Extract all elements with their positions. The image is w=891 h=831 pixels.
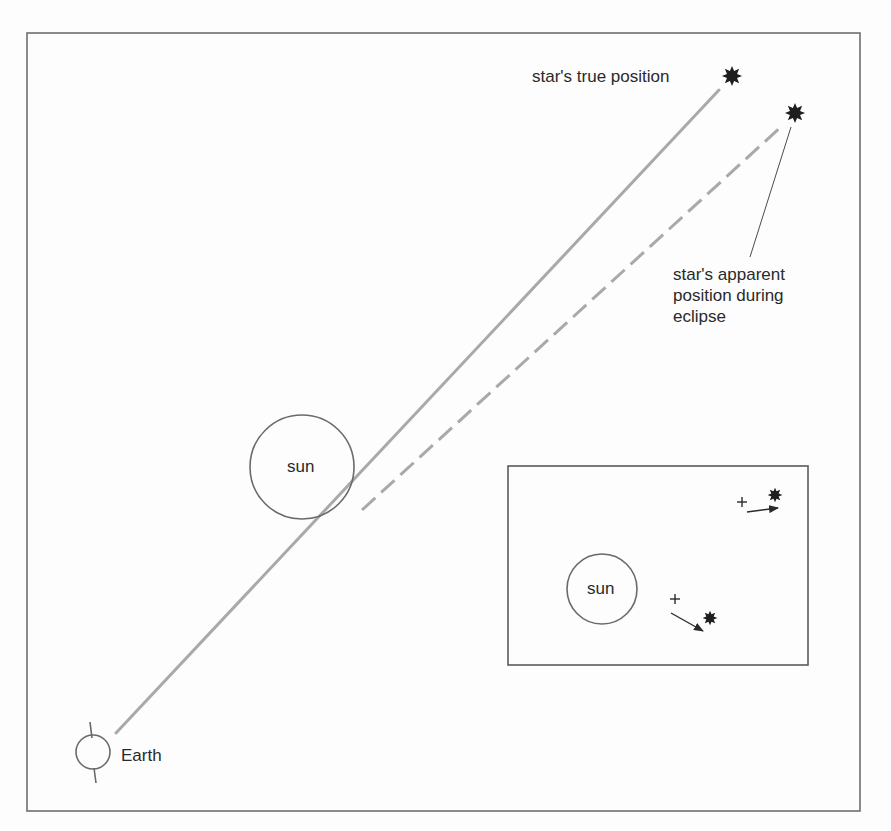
inset-true-position-plus-icon <box>737 497 747 507</box>
inset-box <box>508 466 808 665</box>
apparent-position-label: star's apparent position during eclipse <box>673 264 803 327</box>
true-position-label: star's true position <box>532 66 669 87</box>
light-deflection-diagram <box>0 0 891 831</box>
inset-apparent-star-icon <box>768 488 783 503</box>
apparent-position-star-icon <box>785 103 805 123</box>
sun-label: sun <box>287 456 314 477</box>
apparent-position-leader-line <box>750 127 791 257</box>
inset-apparent-star-icon <box>703 611 718 626</box>
apparent-position-label-line-3: eclipse <box>673 306 803 327</box>
earth-icon <box>76 722 110 783</box>
inset-sun-label: sun <box>587 578 614 599</box>
apparent-position-label-line-2: position during <box>673 285 803 306</box>
true-light-ray <box>116 90 719 733</box>
true-position-star-icon <box>722 66 742 86</box>
inset-displacement-arrow-icon <box>671 613 703 631</box>
apparent-position-label-line-1: star's apparent <box>673 264 803 285</box>
earth-label: Earth <box>121 745 162 766</box>
inset-true-position-plus-icon <box>670 594 680 604</box>
inset-displacement-arrow-icon <box>747 508 778 512</box>
